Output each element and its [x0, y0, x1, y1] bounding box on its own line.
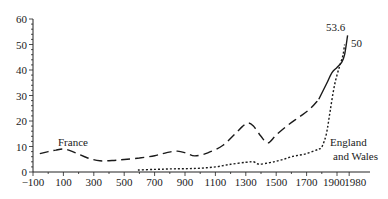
x-tick-label: 700 — [146, 176, 163, 188]
y-tick-label: 30 — [16, 90, 28, 102]
x-axis: −100100300500700900110013001500170019001… — [22, 172, 370, 188]
annotation-label: England — [330, 136, 367, 148]
annotation-label: 53.6 — [326, 21, 346, 33]
y-tick-label: 50 — [16, 39, 28, 51]
x-tick-label: 1500 — [265, 176, 288, 188]
annotation-label: and Wales — [333, 150, 378, 162]
x-tick-label: 1100 — [205, 176, 227, 188]
x-tick-label: 1300 — [235, 176, 258, 188]
y-tick-label: 20 — [16, 115, 28, 127]
series-lines — [40, 35, 348, 170]
england-wales-line — [138, 45, 345, 171]
y-tick-label: 60 — [16, 13, 28, 25]
france-line-solid — [319, 35, 348, 99]
y-tick-label: 10 — [16, 141, 28, 153]
x-tick-label: 300 — [86, 176, 103, 188]
france-line-dashed — [40, 99, 319, 161]
x-tick-label: 1900 — [323, 176, 346, 188]
x-tick-label: −100 — [22, 176, 45, 188]
line-chart: 0102030405060 −1001003005007009001100130… — [0, 0, 388, 199]
x-tick-label: 900 — [177, 176, 194, 188]
x-tick-label: 1700 — [296, 176, 319, 188]
annotation-label: France — [58, 136, 88, 148]
x-tick-label: 100 — [55, 176, 72, 188]
x-tick-label: 1980 — [344, 176, 367, 188]
x-tick-label: 500 — [116, 176, 133, 188]
annotations: France53.650Englandand Wales — [58, 21, 378, 162]
annotation-label: 50 — [351, 37, 363, 49]
y-axis: 0102030405060 — [16, 13, 33, 178]
y-tick-label: 40 — [16, 64, 28, 76]
